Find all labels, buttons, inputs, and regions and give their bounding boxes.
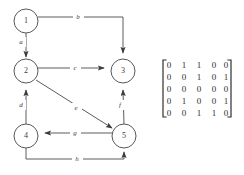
matrix-cell: 0 [182, 72, 187, 82]
edge-g-label: g [73, 129, 77, 137]
node-1-label: 1 [24, 16, 28, 25]
matrix-row: 0 1 0 0 1 [167, 96, 229, 106]
matrix-cell: 0 [197, 96, 202, 106]
edge-h: h [26, 148, 124, 164]
node-4-label: 4 [24, 131, 28, 140]
matrix-cell: 1 [182, 96, 187, 106]
edge-e: e [36, 80, 112, 128]
matrix-cell: 0 [224, 84, 229, 94]
edge-a-label: a [19, 38, 23, 46]
node-3-label: 3 [121, 66, 125, 75]
edge-d-label: d [19, 101, 23, 109]
node-5-label: 5 [122, 131, 126, 140]
figure-container: a b c d [0, 0, 244, 175]
matrix-row: 0 0 1 1 0 [167, 108, 229, 118]
graph-node-5: 5 [112, 124, 136, 148]
matrix-cell: 0 [182, 108, 187, 118]
edge-c: c [38, 63, 104, 73]
matrix-cell: 0 [167, 60, 172, 70]
edge-b-label: b [76, 13, 80, 21]
matrix-cell: 0 [167, 96, 172, 106]
matrix-cell: 0 [224, 108, 229, 118]
matrix-row: 0 1 1 0 0 [167, 60, 229, 70]
node-2-label: 2 [24, 66, 28, 75]
edge-e-label: e [74, 104, 77, 112]
matrix-cell: 1 [224, 72, 229, 82]
matrix-cell: 0 [197, 84, 202, 94]
graph-node-3: 3 [111, 59, 135, 83]
edge-b: b [38, 12, 123, 53]
matrix-cell: 0 [212, 96, 217, 106]
graph-node-2: 2 [14, 59, 38, 83]
graph-node-1: 1 [14, 9, 38, 33]
matrix-cell: 0 [167, 108, 172, 118]
matrix-cell: 1 [182, 60, 187, 70]
matrix-row: 0 0 0 0 0 [167, 84, 229, 94]
matrix-cell: 0 [224, 60, 229, 70]
matrix-cell: 1 [197, 60, 202, 70]
matrix-cell: 0 [167, 72, 172, 82]
edge-g: g [45, 128, 112, 138]
matrix-row: 0 0 1 0 1 [167, 72, 229, 82]
matrix-cell: 0 [212, 84, 217, 94]
matrix-cell: 0 [167, 84, 172, 94]
graph-node-4: 4 [14, 124, 38, 148]
graph-and-matrix-figure: a b c d [0, 0, 244, 175]
edge-b-path [38, 17, 123, 53]
nodes-group: 1 2 3 4 5 [14, 9, 136, 148]
matrix-cell: 0 [212, 72, 217, 82]
matrix-cell: 1 [224, 96, 229, 106]
matrix-left-bracket [163, 60, 166, 117]
adjacency-matrix: 0 1 1 0 0 0 0 1 0 1 0 0 0 0 0 [163, 60, 231, 118]
edge-h-label: h [75, 155, 79, 163]
matrix-cell: 1 [197, 108, 202, 118]
matrix-cell: 1 [197, 72, 202, 82]
edge-d: d [15, 90, 26, 124]
matrix-cell: 0 [212, 60, 217, 70]
edge-f: f [114, 90, 125, 124]
matrix-right-bracket [228, 60, 231, 117]
matrix-cell: 1 [212, 108, 217, 118]
matrix-cell: 0 [182, 84, 187, 94]
edge-a: a [15, 33, 26, 57]
